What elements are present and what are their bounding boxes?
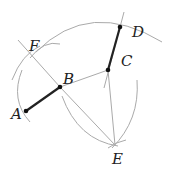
label-d: D [132,25,144,40]
label-e: E [112,152,123,167]
arc-e-right [112,80,137,148]
label-f: F [29,39,39,54]
arc-e-tick [108,140,126,148]
geometry-diagram: A B C D E F [0,0,179,173]
construction-figure [0,0,179,173]
point-d [118,25,123,30]
label-b: B [63,72,74,87]
point-c [106,68,111,73]
arc-e-left [62,96,118,146]
line-be [60,87,115,145]
label-c: C [121,54,132,69]
point-a [24,109,29,114]
segment-ab [26,87,60,111]
line-ce [108,70,115,145]
segment-cd [108,27,120,70]
point-b [58,85,63,90]
label-a: A [11,107,22,122]
